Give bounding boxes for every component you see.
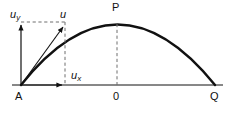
label-point-origin: 0 <box>113 91 119 102</box>
velocity-vector-arrow <box>21 27 63 85</box>
label-u: u <box>60 9 66 20</box>
label-point-q: Q <box>210 91 219 102</box>
label-uy: uy <box>10 9 20 20</box>
label-ux-subscript: x <box>77 74 81 83</box>
label-apex-p: P <box>112 2 119 13</box>
label-ux: ux <box>71 70 81 81</box>
label-uy-subscript: y <box>16 13 20 22</box>
label-point-a: A <box>15 91 22 102</box>
trajectory-curve <box>21 25 215 86</box>
projectile-trajectory-figure: uy u P ux A 0 Q <box>0 0 229 113</box>
